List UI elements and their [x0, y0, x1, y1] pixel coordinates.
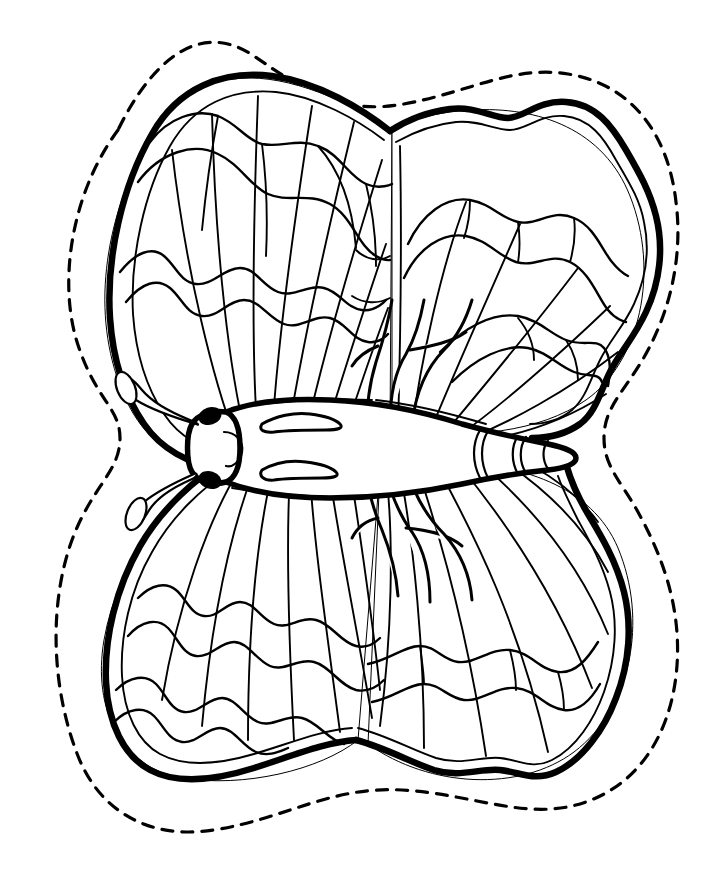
fill-lower-right: [368, 462, 633, 780]
butterfly-artwork: [0, 0, 718, 875]
head-group: [188, 405, 243, 491]
antenna-lower-club: [121, 495, 150, 533]
coloring-page-canvas: [0, 0, 718, 875]
